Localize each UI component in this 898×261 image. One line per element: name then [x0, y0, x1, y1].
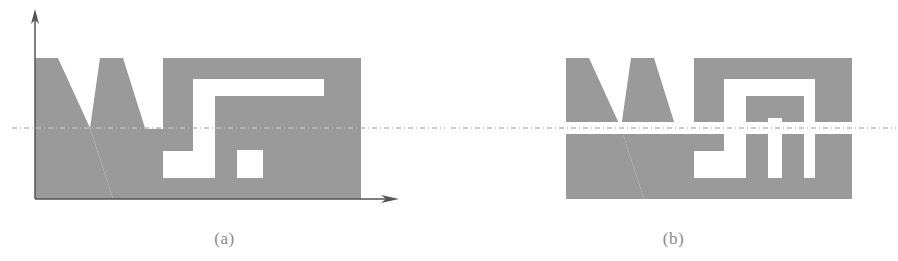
- panel-a-graphic: [0, 0, 449, 261]
- maze-inner-arm: [215, 96, 285, 118]
- caption-a: (a): [0, 229, 449, 249]
- panel-a: (a): [0, 0, 449, 261]
- panel-b: (b): [449, 0, 898, 261]
- maze-inner-arm-upper: [746, 96, 804, 118]
- figure-root: (a): [0, 0, 898, 261]
- panel-b-graphic: [449, 0, 898, 261]
- caption-b: (b): [449, 229, 898, 249]
